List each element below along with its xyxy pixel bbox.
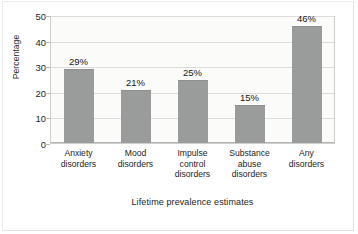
y-axis-tick-mark [44, 93, 50, 94]
y-axis-tick-labels: 01020304050 [24, 16, 46, 144]
x-axis-category-label-line: Any [278, 148, 335, 159]
bar: 46% [292, 26, 322, 143]
y-axis-tick-label: 10 [24, 113, 46, 124]
x-axis-category-labels: AnxietydisordersMooddisordersImpulsecont… [50, 148, 335, 190]
bar-rect [292, 26, 322, 143]
y-axis-tick-label: 30 [24, 62, 46, 73]
x-axis-category-label: Anxietydisorders [50, 148, 107, 169]
x-axis-category-label-line: disorders [50, 159, 107, 170]
x-axis-category-label-line: abuse [221, 159, 278, 170]
y-axis-title: Percentage [11, 17, 21, 97]
y-axis-tick-mark [44, 67, 50, 68]
x-axis-category-label-line: disorders [107, 159, 164, 170]
bar-rect [121, 90, 151, 143]
bar: 21% [121, 90, 151, 143]
y-axis-tick-label: 50 [24, 11, 46, 22]
bar-value-label: 46% [297, 13, 316, 24]
x-axis-category-label-line: disorders [278, 159, 335, 170]
y-axis-tick-mark [44, 118, 50, 119]
x-axis-title: Lifetime prevalence estimates [50, 197, 335, 207]
y-axis-tick-mark [44, 144, 50, 145]
y-axis-tick-mark [44, 42, 50, 43]
x-axis-category-label-line: disorders [164, 169, 221, 180]
bar: 25% [178, 80, 208, 144]
y-axis-tick-mark [44, 16, 50, 17]
x-axis-category-label-line: disorders [221, 169, 278, 180]
bar-series: 29%21%25%15%46% [50, 16, 335, 144]
bar-chart-figure: Percentage 01020304050 29%21%25%15%46% A… [0, 0, 358, 234]
x-axis-category-label: Anydisorders [278, 148, 335, 169]
bar-value-label: 21% [126, 77, 145, 88]
bar: 15% [235, 105, 265, 143]
bar-rect [178, 80, 208, 144]
bar-value-label: 29% [69, 56, 88, 67]
x-axis-category-label-line: Anxiety [50, 148, 107, 159]
x-axis-category-label: Impulsecontroldisorders [164, 148, 221, 180]
x-axis-category-label-line: control [164, 159, 221, 170]
bar-rect [235, 105, 265, 143]
x-axis-category-label-line: Substance [221, 148, 278, 159]
x-axis-category-label-line: Mood [107, 148, 164, 159]
bar-value-label: 15% [240, 92, 259, 103]
x-axis-category-label: Mooddisorders [107, 148, 164, 169]
bar-rect [64, 69, 94, 143]
y-axis-tick-label: 0 [24, 139, 46, 150]
y-axis-tick-label: 20 [24, 87, 46, 98]
y-axis-tick-label: 40 [24, 36, 46, 47]
x-axis-category-label: Substanceabusedisorders [221, 148, 278, 180]
bar-value-label: 25% [183, 67, 202, 78]
x-axis-category-label-line: Impulse [164, 148, 221, 159]
bar: 29% [64, 69, 94, 143]
